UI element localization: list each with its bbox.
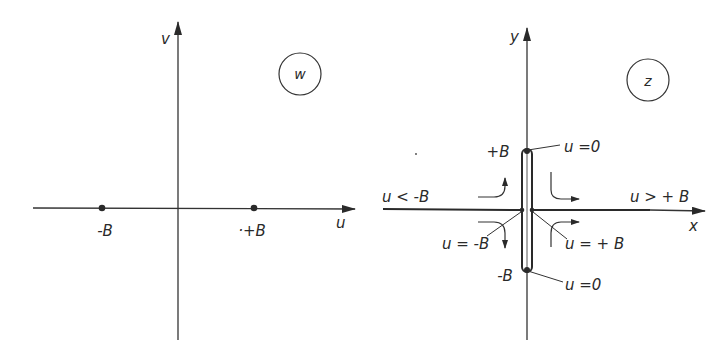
u-axis-label: u xyxy=(336,214,346,232)
flow-arrow-upper-left xyxy=(478,178,505,197)
v-axis-label: v xyxy=(161,30,171,48)
region-right-label: u > + B xyxy=(630,188,689,206)
x-axis-arrow xyxy=(650,210,705,211)
top-u-zero-label: u =0 xyxy=(564,138,600,156)
stray-dot xyxy=(415,153,417,155)
u-plus-b-label: u = + B xyxy=(565,235,624,253)
bottom-leader-line xyxy=(528,271,563,282)
z-plane-panel: y x z +B -B u =0 u =0 u = -B u = + B u <… xyxy=(382,28,705,340)
bottom-u-zero-label: u =0 xyxy=(565,276,601,294)
point-minus-b xyxy=(99,205,106,212)
slit-bottom-tip xyxy=(524,267,530,273)
slit-right-point xyxy=(530,208,535,213)
flow-arrow-upper-right xyxy=(551,172,579,199)
conformal-map-diagram: v u w -B ·+B y x z +B -B u xyxy=(0,0,728,357)
x-axis-left xyxy=(383,209,520,210)
u-minus-b-label: u = -B xyxy=(442,235,489,253)
point-plus-b xyxy=(251,205,258,212)
y-axis-label: y xyxy=(509,28,520,46)
top-leader-line xyxy=(528,145,560,150)
point-minus-b-label: -B xyxy=(97,222,113,240)
w-plane-label: w xyxy=(294,66,306,82)
right-point-leader-line xyxy=(533,212,567,239)
u-axis xyxy=(33,208,355,209)
x-axis-label: x xyxy=(688,217,698,235)
point-plus-b-label: ·+B xyxy=(238,222,266,240)
z-plane-label: z xyxy=(643,73,652,89)
slit-bottom-label: -B xyxy=(497,267,513,285)
region-left-label: u < -B xyxy=(382,188,429,206)
slit-left-point xyxy=(520,208,525,213)
slit-top-tip xyxy=(524,148,530,154)
slit-top-label: +B xyxy=(487,143,510,161)
left-point-leader-line xyxy=(487,212,521,236)
w-plane-panel: v u w -B ·+B xyxy=(33,22,355,340)
